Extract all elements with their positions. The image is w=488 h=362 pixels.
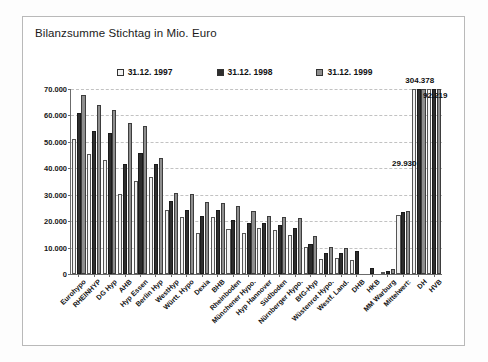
bar-group <box>164 89 179 274</box>
bar <box>92 131 96 274</box>
bar-group <box>117 89 132 274</box>
bar-group <box>334 89 349 274</box>
x-axis-tick-mark <box>217 274 218 277</box>
x-axis-tick-mark <box>387 274 388 277</box>
bar <box>427 89 431 274</box>
bar <box>216 210 220 274</box>
bar-group <box>272 89 287 274</box>
bar-series-container <box>71 89 442 274</box>
bar <box>72 139 76 274</box>
y-axis-tick-label: 60.000 <box>44 111 67 120</box>
bar <box>128 123 132 274</box>
x-axis-tick-mark <box>372 274 373 277</box>
x-axis-tick-mark <box>125 274 126 277</box>
bar <box>77 113 81 274</box>
bar <box>381 272 385 274</box>
bar <box>226 229 230 274</box>
y-axis-tick-label: 40.000 <box>44 164 67 173</box>
x-axis-tick-mark <box>186 274 187 277</box>
bar-group <box>226 89 241 274</box>
x-axis-tick-mark <box>248 274 249 277</box>
bar <box>185 210 189 274</box>
bar-group <box>256 89 271 274</box>
bar <box>196 233 200 274</box>
bar-group <box>411 89 426 274</box>
bar <box>81 95 85 274</box>
legend-item-3: 31.12. 1999 <box>316 67 372 77</box>
bar <box>391 269 395 274</box>
bar <box>288 235 292 274</box>
y-axis-tick-label: 10.000 <box>44 243 67 252</box>
bar <box>257 228 261 275</box>
data-label: 304.378 <box>405 76 434 85</box>
bar <box>350 260 354 274</box>
bar <box>242 233 246 274</box>
bar <box>339 253 343 274</box>
bar <box>293 228 297 274</box>
bar <box>205 202 209 274</box>
bar <box>108 133 112 274</box>
bar <box>174 193 178 274</box>
x-axis-tick-mark <box>325 274 326 277</box>
x-axis-tick-mark <box>202 274 203 277</box>
bar <box>231 220 235 274</box>
bar <box>262 223 266 274</box>
bar <box>236 206 240 274</box>
y-axis-tick-label: 70.000 <box>44 85 67 94</box>
plot-wrapper: 70.00060.00050.00040.00030.00020.00010.0… <box>70 89 442 275</box>
bar-group <box>426 89 441 274</box>
x-axis-tick-mark <box>155 274 156 277</box>
x-axis-tick-mark <box>295 274 296 277</box>
bar <box>298 218 302 274</box>
legend-swatch-icon <box>117 69 124 76</box>
bar <box>211 217 215 274</box>
bar <box>319 259 323 274</box>
bar <box>313 236 317 274</box>
x-axis-tick-mark <box>434 274 435 277</box>
bar <box>417 89 421 274</box>
bar-group <box>210 89 225 274</box>
bar <box>278 225 282 274</box>
legend-item-label: 31.12. 1997 <box>128 67 173 77</box>
bar-group <box>133 89 148 274</box>
bar-group <box>349 89 364 274</box>
bar-group <box>318 89 333 274</box>
bar-group <box>195 89 210 274</box>
x-axis-label: DHB <box>350 278 366 294</box>
bar-group <box>303 89 318 274</box>
screenshot-root: Bilanzsumme Stichtag in Mio. Euro 31.12.… <box>0 0 488 362</box>
x-axis-tick-mark <box>140 274 141 277</box>
legend-item-label: 31.12. 1999 <box>327 67 372 77</box>
y-axis-tick-mark <box>68 274 71 275</box>
bar <box>123 164 127 274</box>
bar-group <box>86 89 101 274</box>
chart-legend: 31.12. 199731.12. 199831.12. 1999 <box>23 67 466 77</box>
bar <box>308 244 312 274</box>
bar <box>432 89 436 274</box>
x-axis-tick-mark <box>403 274 404 277</box>
page-title: Bilanzsumme Stichtag in Mio. Euro <box>35 27 217 39</box>
bar-group <box>380 89 395 274</box>
plot-area: 70.00060.00050.00040.00030.00020.00010.0… <box>70 89 442 275</box>
bar <box>200 216 204 274</box>
bar <box>180 217 184 274</box>
x-axis-tick-mark <box>418 274 419 277</box>
bar <box>118 194 122 274</box>
x-axis-label: Dexia <box>193 278 211 296</box>
bar <box>169 201 173 274</box>
x-axis-tick-mark <box>264 274 265 277</box>
bar <box>282 217 286 274</box>
bar <box>273 230 277 274</box>
bar <box>437 89 441 274</box>
bar <box>247 223 251 274</box>
bar <box>324 253 328 274</box>
x-axis-tick-mark <box>341 274 342 277</box>
x-axis-tick-mark <box>78 274 79 277</box>
bar <box>165 210 169 274</box>
bar-group <box>179 89 194 274</box>
legend-item-label: 31.12. 1998 <box>228 67 273 77</box>
bar <box>421 89 425 274</box>
bar-group <box>71 89 86 274</box>
bar <box>149 177 153 274</box>
x-axis-label: DH <box>416 278 428 290</box>
